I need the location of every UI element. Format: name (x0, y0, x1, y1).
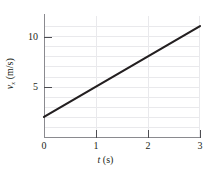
y-axis-tick-10 (44, 37, 52, 38)
gridline-horizontal (44, 56, 200, 57)
gridline-vertical (199, 16, 200, 137)
gridline-horizontal (44, 36, 200, 37)
gridline-horizontal (44, 107, 200, 108)
gridline-horizontal (44, 97, 200, 98)
gridline-horizontal (44, 77, 200, 78)
y-axis-tick-label: 10 (14, 32, 38, 42)
y-axis-label-units: (m/s) (4, 58, 15, 79)
y-axis-label-subscript: x (9, 82, 17, 85)
x-axis-tick-label: 0 (34, 141, 54, 151)
x-axis-tick-1 (96, 130, 97, 138)
x-axis-tick-label: 1 (86, 141, 106, 151)
x-axis-tick-2 (148, 130, 149, 138)
gridline-vertical (96, 16, 97, 137)
x-axis-tick-3 (200, 130, 201, 138)
velocity-time-chart: 10 5 0 1 2 3 t (s) vx (m/s) (0, 0, 211, 174)
y-axis-line (44, 14, 45, 138)
x-axis-tick-label: 3 (190, 141, 210, 151)
y-axis-tick-label: 5 (14, 82, 38, 92)
gridline-vertical (148, 16, 149, 137)
x-axis-label-symbol: t (98, 154, 101, 165)
x-axis-label-units: (s) (103, 154, 114, 165)
x-axis-label: t (s) (0, 155, 211, 165)
y-axis-tick-5 (44, 87, 52, 88)
gridline-horizontal (44, 87, 200, 88)
gridline-horizontal (44, 66, 200, 67)
y-axis-label: vx (m/s) (5, 34, 17, 114)
gridline-horizontal (44, 46, 200, 47)
y-axis-label-symbol: v (4, 85, 15, 89)
gridline-horizontal (44, 127, 200, 128)
gridline-horizontal (44, 117, 200, 118)
x-axis-line (44, 137, 201, 138)
x-axis-tick-label: 2 (138, 141, 158, 151)
plot-area (44, 16, 200, 137)
gridline-horizontal (44, 26, 200, 27)
